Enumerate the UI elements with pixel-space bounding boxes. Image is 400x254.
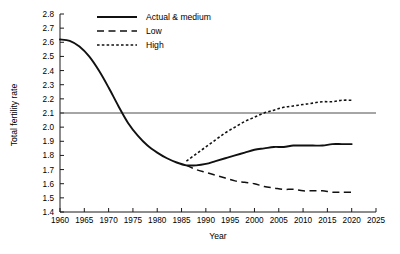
x-tick-label: 2015 <box>318 216 337 225</box>
y-tick-label: 2.8 <box>43 10 55 19</box>
y-tick-label: 2.2 <box>43 95 55 104</box>
legend-label-low: Low <box>146 26 163 36</box>
x-tick-label: 1965 <box>75 216 94 225</box>
y-tick-label: 1.7 <box>43 166 55 175</box>
x-tick-label: 2025 <box>367 216 386 225</box>
fertility-rate-chart: 1.41.51.61.71.81.92.02.12.22.32.42.52.62… <box>0 0 400 254</box>
legend-label-actual-medium: Actual & medium <box>146 12 211 22</box>
x-tick-label: 1995 <box>221 216 240 225</box>
x-tick-label: 1960 <box>51 216 70 225</box>
x-tick-label: 2005 <box>270 216 289 225</box>
x-tick-label: 2000 <box>245 216 264 225</box>
x-tick-label: 1980 <box>148 216 167 225</box>
legend-label-high: High <box>146 40 164 50</box>
y-tick-label: 2.0 <box>43 123 55 132</box>
series-line-high <box>186 100 351 161</box>
x-axis-ticks <box>60 208 376 212</box>
y-tick-label: 2.4 <box>43 67 55 76</box>
y-tick-label: 2.5 <box>43 52 55 61</box>
series-line-low <box>186 165 351 192</box>
y-tick-label: 1.8 <box>43 151 55 160</box>
x-axis-tick-labels: 1960196519701975198019851990199520002005… <box>51 216 386 225</box>
y-axis-title: Total fertility rate <box>9 84 19 147</box>
chart-canvas: 1.41.51.61.71.81.92.02.12.22.32.42.52.62… <box>0 0 400 254</box>
y-tick-label: 2.7 <box>43 24 55 33</box>
chart-legend: Actual & medium Low High <box>97 12 211 50</box>
x-tick-label: 1970 <box>100 216 119 225</box>
x-tick-label: 2020 <box>343 216 362 225</box>
y-tick-label: 2.1 <box>43 109 55 118</box>
x-tick-label: 1985 <box>172 216 191 225</box>
y-tick-label: 1.5 <box>43 194 55 203</box>
y-tick-label: 1.6 <box>43 180 55 189</box>
x-tick-label: 1990 <box>197 216 216 225</box>
y-axis-tick-labels: 1.41.51.61.71.81.92.02.12.22.32.42.52.62… <box>43 10 55 217</box>
x-tick-label: 2010 <box>294 216 313 225</box>
y-tick-label: 2.6 <box>43 38 55 47</box>
x-axis-title: Year <box>209 231 227 241</box>
y-tick-label: 2.3 <box>43 81 55 90</box>
y-tick-label: 1.9 <box>43 137 55 146</box>
x-tick-label: 1975 <box>124 216 143 225</box>
